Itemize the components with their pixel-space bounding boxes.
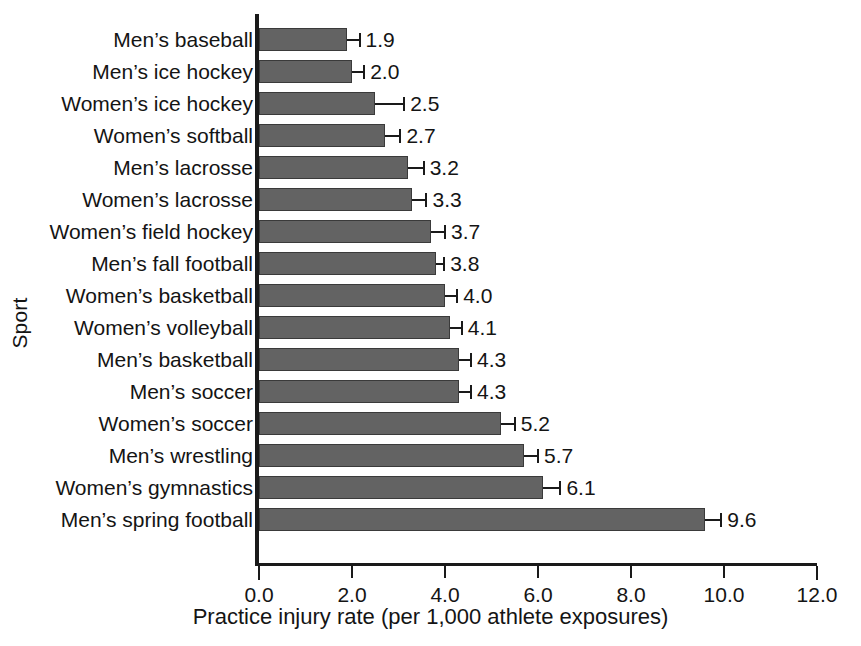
category-label: Women’s lacrosse [4, 187, 253, 212]
bar [259, 124, 385, 147]
bar [259, 444, 524, 467]
x-axis-line [255, 563, 817, 566]
error-bar-cap [403, 97, 405, 111]
plot-area: Men’s baseball1.9Men’s ice hockey2.0Wome… [259, 14, 817, 563]
x-axis-tick [537, 566, 539, 578]
bar [259, 380, 459, 403]
error-bar [352, 71, 363, 73]
error-bar-cap [425, 193, 427, 207]
error-bar [524, 455, 537, 457]
bar [259, 60, 352, 83]
category-label: Men’s spring football [4, 507, 253, 532]
value-label: 1.9 [366, 27, 395, 52]
bar [259, 156, 408, 179]
value-label: 5.7 [544, 443, 573, 468]
x-axis-tick [630, 566, 632, 578]
bar [259, 252, 436, 275]
error-bar [459, 391, 470, 393]
x-axis-tick [723, 566, 725, 578]
x-axis-tick [258, 566, 260, 580]
error-bar [385, 135, 400, 137]
category-label: Men’s ice hockey [4, 59, 253, 84]
error-bar-cap [456, 289, 458, 303]
category-label: Men’s wrestling [4, 443, 253, 468]
error-bar [445, 295, 456, 297]
category-label: Women’s ice hockey [4, 91, 253, 116]
category-label: Men’s fall football [4, 251, 253, 276]
error-bar-cap [559, 481, 561, 495]
error-bar-cap [537, 449, 539, 463]
value-label: 2.0 [370, 59, 399, 84]
error-bar-cap [514, 417, 516, 431]
x-axis-tick [444, 566, 446, 578]
x-axis-tick [816, 566, 818, 580]
value-label: 4.1 [468, 315, 497, 340]
error-bar-cap [359, 33, 361, 47]
category-label: Men’s soccer [4, 379, 253, 404]
category-label: Women’s basketball [4, 283, 253, 308]
error-bar [543, 487, 560, 489]
bar [259, 316, 450, 339]
error-bar [705, 519, 720, 521]
value-label: 3.8 [450, 251, 479, 276]
value-label: 3.2 [430, 155, 459, 180]
category-label: Men’s baseball [4, 27, 253, 52]
bar [259, 188, 412, 211]
x-axis-tick [351, 566, 353, 578]
error-bar-cap [399, 129, 401, 143]
value-label: 4.0 [463, 283, 492, 308]
bar [259, 220, 431, 243]
error-bar [459, 359, 470, 361]
error-bar-cap [720, 513, 722, 527]
error-bar [347, 39, 358, 41]
error-bar-cap [423, 161, 425, 175]
category-label: Women’s softball [4, 123, 253, 148]
bar [259, 348, 459, 371]
error-bar [436, 263, 443, 265]
error-bar-cap [444, 225, 446, 239]
category-label: Women’s gymnastics [4, 475, 253, 500]
error-bar [412, 199, 425, 201]
value-label: 4.3 [477, 347, 506, 372]
error-bar [408, 167, 423, 169]
error-bar [501, 423, 514, 425]
error-bar-cap [443, 257, 445, 271]
category-label: Men’s basketball [4, 347, 253, 372]
error-bar [450, 327, 461, 329]
bar [259, 508, 705, 531]
category-label: Men’s lacrosse [4, 155, 253, 180]
value-label: 2.7 [406, 123, 435, 148]
bar [259, 28, 347, 51]
error-bar-cap [470, 353, 472, 367]
error-bar-cap [363, 65, 365, 79]
value-label: 6.1 [566, 475, 595, 500]
x-axis-title: Practice injury rate (per 1,000 athlete … [0, 604, 861, 630]
value-label: 3.3 [432, 187, 461, 212]
error-bar [431, 231, 444, 233]
category-label: Women’s field hockey [4, 219, 253, 244]
error-bar-cap [461, 321, 463, 335]
value-label: 4.3 [477, 379, 506, 404]
value-label: 2.5 [410, 91, 439, 116]
category-label: Women’s volleyball [4, 315, 253, 340]
category-label: Women’s soccer [4, 411, 253, 436]
error-bar-cap [470, 385, 472, 399]
bar [259, 476, 543, 499]
value-label: 3.7 [451, 219, 480, 244]
bar [259, 284, 445, 307]
bar [259, 412, 501, 435]
practice-injury-rate-bar-chart: Sport Men’s baseball1.9Men’s ice hockey2… [0, 0, 861, 646]
bar [259, 92, 375, 115]
value-label: 9.6 [727, 507, 756, 532]
value-label: 5.2 [521, 411, 550, 436]
error-bar [375, 103, 403, 105]
